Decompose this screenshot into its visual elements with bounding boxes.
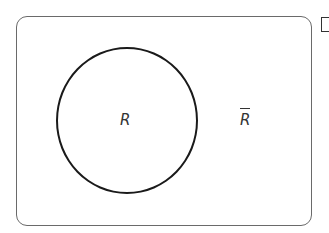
- complement-r-label: R: [240, 113, 250, 128]
- partial-bracket-icon: [321, 17, 329, 32]
- complement-overline: [240, 108, 250, 109]
- set-r-label: R: [120, 113, 130, 128]
